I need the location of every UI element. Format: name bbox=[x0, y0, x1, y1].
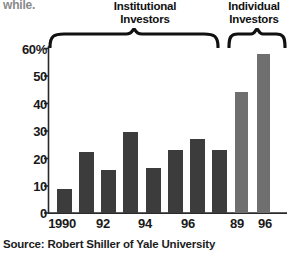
y-tick-30: 30 bbox=[33, 124, 47, 139]
y-tick-60: 60% bbox=[22, 42, 47, 57]
x-axis-tick-labels: 1990 92 94 96 89 96 bbox=[0, 216, 290, 236]
bar-institutional-1 bbox=[79, 152, 94, 213]
bar-institutional-6 bbox=[190, 139, 205, 213]
x-tick-1990: 1990 bbox=[42, 216, 82, 231]
bar-institutional-0 bbox=[57, 189, 72, 213]
x-tick-89: 89 bbox=[224, 216, 250, 231]
chart-plot-area: 60% 50 40 30 20 10 0 1990 92 94 96 89 96 bbox=[0, 0, 290, 257]
y-tick-40: 40 bbox=[33, 97, 47, 112]
bar-institutional-5 bbox=[168, 150, 183, 213]
bar-institutional-2 bbox=[101, 170, 116, 213]
y-tick-20: 20 bbox=[33, 152, 47, 167]
bar-individual-9 bbox=[257, 54, 270, 213]
bar-institutional-3 bbox=[123, 132, 138, 213]
y-tick-10: 10 bbox=[33, 179, 47, 194]
bar-individual-8 bbox=[235, 92, 248, 213]
bars-container bbox=[50, 46, 286, 213]
y-tick-50: 50 bbox=[33, 69, 47, 84]
x-tick-96: 96 bbox=[175, 216, 201, 231]
source-note: Source: Robert Shiller of Yale Universit… bbox=[3, 238, 215, 250]
x-tick-92: 92 bbox=[90, 216, 116, 231]
bar-institutional-4 bbox=[146, 168, 161, 213]
x-tick-96-individual: 96 bbox=[252, 216, 278, 231]
x-tick-94: 94 bbox=[132, 216, 158, 231]
bar-institutional-7 bbox=[212, 150, 227, 213]
